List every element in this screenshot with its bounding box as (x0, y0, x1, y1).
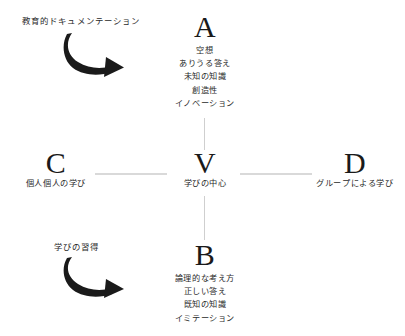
curved-arrow-icon (62, 29, 134, 81)
node-a-description: 空想 ありうる答え 未知の知識 創造性 イノベーション (125, 44, 285, 110)
node-c-label: 個人個人の学び (16, 178, 96, 190)
node-v-label: 学びの中心 (173, 178, 237, 190)
node-b-letter: B (175, 240, 235, 270)
node-b-line-2: 正しい答え (125, 285, 285, 298)
node-b-description: 論理的な考え方 正しい答え 既知の知識 イミテーション (125, 272, 285, 325)
node-d-letter: D (325, 148, 385, 178)
node-b-line-1: 論理的な考え方 (125, 272, 285, 285)
node-b-line-4: イミテーション (125, 312, 285, 325)
annotation-bottom-label: 学びの習得 (54, 240, 100, 252)
connector-v-to-d (240, 173, 312, 175)
node-c-letter: C (26, 148, 86, 178)
node-a-line-3: 未知の知識 (125, 70, 285, 83)
node-d-label: グループによる学び (305, 178, 405, 190)
node-a-line-1: 空想 (125, 44, 285, 57)
diagram-canvas: 教育的ドキュメンテーション A 空想 ありうる答え 未知の知識 創造性 イノベー… (0, 0, 405, 336)
node-a-line-2: ありうる答え (125, 57, 285, 70)
node-a-letter: A (175, 12, 235, 42)
connector-c-to-v (95, 173, 167, 175)
node-b-line-3: 既知の知識 (125, 298, 285, 311)
node-a-line-5: イノベーション (125, 97, 285, 110)
connector-v-to-b (204, 196, 205, 240)
annotation-top-label: 教育的ドキュメンテーション (22, 14, 140, 26)
curved-arrow-icon (62, 254, 134, 302)
node-v-letter: V (175, 148, 235, 178)
node-a-line-4: 創造性 (125, 84, 285, 97)
